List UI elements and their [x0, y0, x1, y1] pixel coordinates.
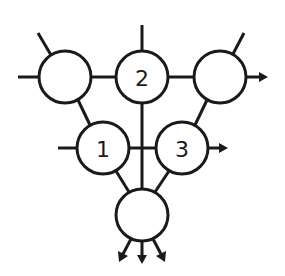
arrow-right-icon — [219, 143, 228, 153]
node-2: 2 — [116, 51, 168, 103]
node-bottom — [116, 189, 168, 241]
input-stub-topleft-diag — [38, 33, 51, 55]
node-top-left — [39, 51, 91, 103]
edge-node3-bottom — [155, 171, 169, 192]
diagram-canvas: 2 1 3 — [0, 0, 285, 276]
edge-node1-bottom — [116, 171, 129, 192]
node-label: 2 — [135, 66, 149, 91]
network-diagram: 2 1 3 — [0, 0, 285, 276]
node-3: 3 — [156, 122, 208, 174]
arrow-down-icon — [137, 255, 147, 264]
edge-topright-node3 — [195, 100, 207, 125]
output-bottom-right — [153, 239, 161, 254]
node-label: 3 — [175, 137, 189, 162]
edge-topleft-node1 — [78, 100, 90, 125]
output-bottom-left — [123, 239, 131, 254]
input-stub-topright-diag — [233, 33, 244, 54]
node-top-right — [194, 51, 246, 103]
arrow-right-icon — [259, 72, 268, 82]
node-1: 1 — [77, 122, 129, 174]
node-label: 1 — [96, 137, 110, 162]
